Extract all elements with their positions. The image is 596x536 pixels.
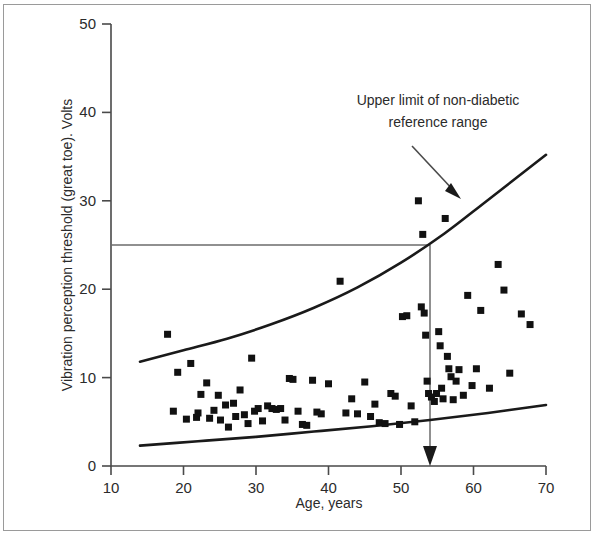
scatter-point bbox=[217, 417, 224, 424]
y-axis-title: Vibration perception threshold (great to… bbox=[59, 99, 75, 391]
scatter-point bbox=[453, 378, 460, 385]
scatter-point bbox=[495, 261, 502, 268]
scatter-point bbox=[440, 395, 447, 402]
scatter-point bbox=[241, 411, 248, 418]
scatter-point bbox=[435, 328, 442, 335]
scatter-point bbox=[295, 408, 302, 415]
scatter-point bbox=[303, 422, 310, 429]
scatter-point bbox=[460, 392, 467, 399]
scatter-point bbox=[473, 365, 480, 372]
scatter-point bbox=[456, 366, 463, 373]
x-axis-title: Age, years bbox=[296, 495, 363, 511]
scatter-point bbox=[222, 402, 229, 409]
scatter-point bbox=[187, 360, 194, 367]
scatter-point bbox=[248, 355, 255, 362]
x-tick-label: 50 bbox=[393, 479, 410, 496]
scatter-point bbox=[415, 197, 422, 204]
scatter-point bbox=[396, 421, 403, 428]
y-axis-tick-labels: 01020304050 bbox=[79, 15, 96, 474]
scatter-point bbox=[506, 370, 513, 377]
scatter-point bbox=[438, 385, 445, 392]
scatter-point bbox=[527, 321, 534, 328]
callout-arrow-line bbox=[412, 146, 455, 192]
x-tick-label: 40 bbox=[320, 479, 337, 496]
callout-line-2: reference range bbox=[389, 114, 488, 130]
scatter-point bbox=[164, 331, 171, 338]
scatter-point bbox=[361, 379, 368, 386]
scatter-point bbox=[277, 405, 284, 412]
scatter-point bbox=[477, 307, 484, 314]
x-tick-label: 60 bbox=[465, 479, 482, 496]
scatter-point bbox=[170, 408, 177, 415]
y-tick-label: 50 bbox=[79, 15, 96, 32]
scatter-point bbox=[225, 424, 232, 431]
scatter-point bbox=[183, 416, 190, 423]
scatter-point bbox=[419, 231, 426, 238]
scatter-point bbox=[382, 420, 389, 427]
scatter-point bbox=[371, 401, 378, 408]
x-axis-tick-labels: 10203040506070 bbox=[103, 479, 555, 496]
x-tick-label: 30 bbox=[248, 479, 265, 496]
y-tick-label: 30 bbox=[79, 192, 96, 209]
scatter-point bbox=[442, 215, 449, 222]
callout-arrowhead bbox=[445, 183, 461, 199]
scatter-point bbox=[411, 418, 418, 425]
scatter-point bbox=[422, 332, 429, 339]
x-axis-ticks bbox=[111, 466, 546, 475]
scatter-point bbox=[195, 409, 202, 416]
threshold-arrowhead bbox=[423, 446, 437, 466]
y-tick-label: 40 bbox=[79, 103, 96, 120]
y-tick-label: 10 bbox=[79, 369, 96, 386]
scatter-point bbox=[431, 398, 438, 405]
scatter-point-group bbox=[164, 197, 534, 430]
scatter-point bbox=[348, 395, 355, 402]
scatter-point bbox=[403, 312, 410, 319]
scatter-point bbox=[210, 407, 217, 414]
scatter-point bbox=[500, 287, 507, 294]
y-tick-label: 20 bbox=[79, 280, 96, 297]
scatter-point bbox=[237, 386, 244, 393]
scatter-point bbox=[325, 380, 332, 387]
scatter-point bbox=[289, 376, 296, 383]
scatter-point bbox=[464, 292, 471, 299]
scatter-point bbox=[174, 369, 181, 376]
callout-line-1: Upper limit of non-diabetic bbox=[357, 92, 520, 108]
scatter-point bbox=[282, 417, 289, 424]
x-tick-label: 70 bbox=[538, 479, 555, 496]
scatter-point bbox=[215, 392, 222, 399]
y-tick-label: 0 bbox=[88, 457, 96, 474]
scatter-point bbox=[444, 353, 451, 360]
scatter-point bbox=[232, 413, 239, 420]
upper-limit-callout: Upper limit of non-diabetic reference ra… bbox=[357, 92, 520, 199]
y-axis-ticks bbox=[102, 24, 111, 466]
scatter-point bbox=[445, 365, 452, 372]
scatter-point bbox=[245, 420, 252, 427]
scatter-point bbox=[424, 378, 431, 385]
reference-range-curves bbox=[140, 155, 546, 446]
scatter-point bbox=[197, 391, 204, 398]
scatter-point bbox=[421, 310, 428, 317]
scatter-point bbox=[450, 396, 457, 403]
scatter-point bbox=[337, 278, 344, 285]
scatter-point bbox=[469, 382, 476, 389]
scatter-point bbox=[518, 310, 525, 317]
scatter-point bbox=[255, 405, 262, 412]
scatter-point bbox=[437, 342, 444, 349]
scatter-point bbox=[418, 303, 425, 310]
x-tick-label: 10 bbox=[103, 479, 120, 496]
reference-curve bbox=[140, 155, 546, 362]
scatter-point bbox=[230, 400, 237, 407]
scatter-chart: 01020304050 10203040506070 Vibration per… bbox=[0, 0, 596, 536]
scatter-point bbox=[309, 377, 316, 384]
scatter-point bbox=[203, 379, 210, 386]
figure-container: 01020304050 10203040506070 Vibration per… bbox=[0, 0, 596, 536]
scatter-point bbox=[206, 415, 213, 422]
scatter-point bbox=[486, 385, 493, 392]
scatter-point bbox=[318, 410, 325, 417]
scatter-point bbox=[259, 417, 266, 424]
scatter-point bbox=[392, 393, 399, 400]
x-tick-label: 20 bbox=[175, 479, 192, 496]
scatter-point bbox=[408, 402, 415, 409]
scatter-point bbox=[342, 409, 349, 416]
scatter-point bbox=[367, 413, 374, 420]
